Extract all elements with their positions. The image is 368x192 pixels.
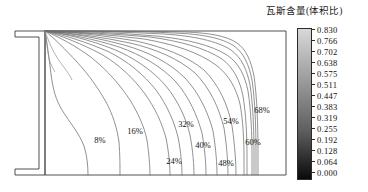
tick-dash-icon	[312, 29, 315, 30]
colorbar-tick: 0.511	[312, 79, 337, 90]
colorbar-tick: 0.319	[312, 112, 338, 123]
contour-label: 48%	[218, 158, 234, 168]
colorbar-tick-value: 0.128	[317, 146, 338, 156]
tick-dash-icon	[312, 128, 315, 129]
contour-label: 8%	[94, 135, 105, 145]
contour-label: 32%	[178, 119, 194, 129]
colorbar-tick-value: 0.319	[317, 113, 338, 123]
contour-plot-figure: 瓦斯含量(体积比)	[0, 0, 368, 192]
tick-dash-icon	[312, 172, 315, 173]
contour-16	[45, 31, 120, 175]
tick-dash-icon	[312, 117, 315, 118]
colorbar-tick: 0.000	[312, 167, 338, 178]
tick-dash-icon	[312, 150, 315, 151]
colorbar-tick-list: 0.830 0.766 0.702 0.638 0.575 0.511	[312, 28, 367, 180]
contour-label: 40%	[195, 140, 211, 150]
tick-dash-icon	[312, 139, 315, 140]
tick-dash-icon	[312, 62, 315, 63]
colorbar-tick: 0.638	[312, 57, 338, 68]
colorbar-tick-value: 0.064	[317, 157, 338, 167]
colorbar-tick-value: 0.255	[317, 124, 338, 134]
contour-plot-svg	[14, 28, 288, 178]
colorbar-tick: 0.830	[312, 24, 338, 35]
colorbar-tick-value: 0.000	[317, 168, 338, 178]
contour-76	[45, 31, 256, 175]
plot-area: 8% 16% 24% 32% 40% 48% 54% 60% 68%	[14, 28, 288, 178]
tick-dash-icon	[312, 84, 315, 85]
contour-32	[45, 31, 170, 175]
colorbar-tick-value: 0.575	[317, 69, 338, 79]
contour-60	[45, 31, 244, 175]
contour-44	[45, 31, 206, 175]
colorbar-tick: 0.766	[312, 35, 338, 46]
colorbar-tick-value: 0.830	[317, 25, 338, 35]
contour-48	[45, 31, 217, 175]
tick-dash-icon	[312, 40, 315, 41]
contour-52	[45, 31, 228, 175]
colorbar-tick-value: 0.511	[317, 80, 337, 90]
tick-dash-icon	[312, 106, 315, 107]
colorbar-gradient	[297, 28, 312, 180]
tick-dash-icon	[312, 51, 315, 52]
tick-dash-icon	[312, 73, 315, 74]
contour-label: 68%	[254, 105, 270, 115]
contour-label: 54%	[223, 116, 239, 126]
contour-label: 60%	[245, 137, 261, 147]
colorbar-tick-value: 0.383	[317, 102, 338, 112]
contour-label: 24%	[166, 156, 182, 166]
colorbar-tick-value: 0.447	[317, 91, 338, 101]
colorbar-tick: 0.064	[312, 156, 338, 167]
colorbar-title: 瓦斯含量(体积比)	[266, 5, 366, 17]
contour-8	[45, 31, 88, 175]
colorbar-tick-value: 0.702	[317, 47, 338, 57]
colorbar-tick: 0.128	[312, 145, 338, 156]
colorbar-tick: 0.702	[312, 46, 338, 57]
contour-80	[45, 31, 258, 175]
contour-label: 16%	[127, 126, 143, 136]
colorbar-tick: 0.575	[312, 68, 338, 79]
colorbar-tick: 0.192	[312, 134, 338, 145]
colorbar-tick-value: 0.192	[317, 135, 338, 145]
tick-dash-icon	[312, 95, 315, 96]
colorbar-tick: 0.255	[312, 123, 338, 134]
contour-lines	[45, 31, 258, 175]
inlet-kink-contours	[45, 31, 72, 80]
colorbar-tick-value: 0.638	[317, 58, 338, 68]
contour-54	[45, 31, 236, 175]
tick-dash-icon	[312, 161, 315, 162]
colorbar-tick: 0.447	[312, 90, 338, 101]
colorbar-tick-value: 0.766	[317, 36, 338, 46]
colorbar-tick: 0.383	[312, 101, 338, 112]
colorbar: 0.830 0.766 0.702 0.638 0.575 0.511	[297, 28, 367, 180]
